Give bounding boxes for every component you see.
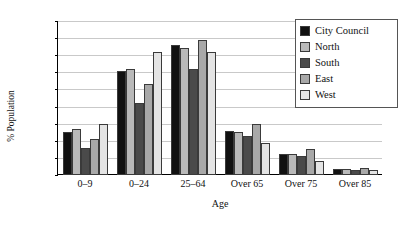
bar-group (220, 21, 274, 175)
bar (243, 136, 252, 175)
legend-swatch (300, 58, 310, 68)
bar (189, 69, 198, 175)
legend-label: North (315, 42, 340, 53)
legend-item: West (300, 87, 393, 103)
bar (207, 52, 216, 175)
y-axis-title: % Population (6, 56, 16, 176)
bar (171, 45, 180, 175)
bar (342, 169, 351, 175)
bar (297, 156, 306, 175)
x-axis-tick-label: Over 65 (220, 178, 274, 189)
legend-item: East (300, 71, 393, 87)
bar (225, 131, 234, 175)
x-axis-tick-label: 0–24 (112, 178, 166, 189)
legend-swatch (300, 90, 310, 100)
bar-group (112, 21, 166, 175)
legend-swatch (300, 26, 310, 36)
bar (306, 149, 315, 175)
bar (252, 124, 261, 175)
bar (198, 40, 207, 175)
x-axis-tick-label: Over 75 (274, 178, 328, 189)
bar (261, 143, 270, 176)
x-axis-tick-label: 0–9 (58, 178, 112, 189)
bar (126, 69, 135, 175)
x-axis-title: Age (58, 198, 382, 209)
bar (63, 132, 72, 175)
bar (315, 161, 324, 175)
bar (333, 169, 342, 175)
bar (90, 139, 99, 175)
bar (81, 148, 90, 175)
bar (351, 170, 360, 175)
legend-item: South (300, 55, 393, 71)
bar-group (166, 21, 220, 175)
legend-item: City Council (300, 23, 393, 39)
legend-swatch (300, 74, 310, 84)
legend-label: West (315, 90, 336, 101)
bar (279, 154, 288, 175)
bar (135, 103, 144, 175)
bar-group (58, 21, 112, 175)
y-axis-tick (55, 175, 58, 176)
legend-item: North (300, 39, 393, 55)
bar (369, 170, 378, 175)
bar (99, 124, 108, 175)
x-axis-tick-label: 25–64 (166, 178, 220, 189)
legend-label: East (315, 74, 333, 85)
bar (180, 48, 189, 175)
chart-legend: City CouncilNorthSouthEastWest (295, 19, 398, 108)
chart-container: % Population 051015202530354045 0–90–242… (0, 0, 412, 225)
x-axis-tick-label: Over 85 (328, 178, 382, 189)
bar (360, 168, 369, 175)
legend-swatch (300, 42, 310, 52)
legend-label: South (315, 58, 340, 69)
bar (144, 84, 153, 175)
bar (72, 129, 81, 175)
x-axis-tick-labels: 0–90–2425–64Over 65Over 75Over 85 (58, 178, 382, 189)
bar (153, 52, 162, 175)
bar (288, 154, 297, 175)
bar (234, 132, 243, 175)
legend-label: City Council (315, 26, 369, 37)
bar (117, 71, 126, 175)
